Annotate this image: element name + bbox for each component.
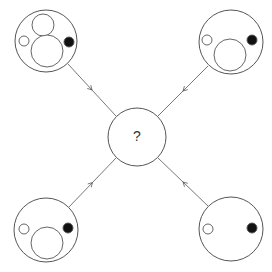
open-circle <box>203 224 213 234</box>
black-dot <box>247 35 257 45</box>
panel-bottom-left <box>14 158 116 262</box>
black-dot <box>63 223 73 233</box>
question-mark-label: ? <box>127 128 147 144</box>
open-circle <box>202 35 212 45</box>
open-circle <box>214 39 246 71</box>
open-circle <box>19 224 29 234</box>
puzzle-diagram: ? <box>0 0 272 272</box>
panel-top-right <box>158 10 263 116</box>
open-circle <box>31 35 63 67</box>
open-circle <box>19 36 29 46</box>
black-dot <box>247 223 257 233</box>
black-dot <box>64 37 74 47</box>
panel-top-left <box>15 10 116 116</box>
open-circle <box>31 227 63 259</box>
panel-bottom-right <box>158 158 263 261</box>
open-circle <box>32 14 54 36</box>
